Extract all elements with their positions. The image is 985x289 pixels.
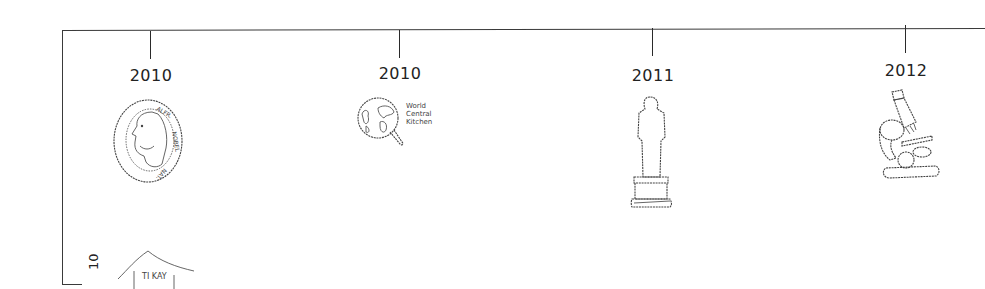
event-year: 2012 (885, 61, 928, 80)
event-year: 2010 (130, 66, 173, 85)
house-sketch-icon: TI KAY (118, 249, 198, 289)
svg-text:Kitchen: Kitchen (406, 118, 432, 126)
side-label: 10 (86, 253, 101, 270)
wck-text: World (406, 102, 426, 110)
svg-text:Central: Central (406, 110, 432, 118)
partial-icon-text: TI KAY (141, 272, 167, 281)
svg-text:NOBEL: NOBEL (171, 131, 182, 153)
oscar-statuette-icon (628, 95, 676, 217)
timeline-tick (150, 31, 151, 59)
nobel-medal-icon: ALFR. NOBEL NAT. (110, 98, 186, 188)
timeline-tick (905, 25, 906, 53)
event-year: 2011 (632, 66, 675, 85)
timeline-axis-bottom (62, 284, 82, 285)
timeline-tick (652, 28, 653, 56)
world-central-kitchen-icon: World Central Kitchen (356, 96, 446, 156)
timeline-axis-top (62, 28, 985, 31)
svg-text:ALFR.: ALFR. (156, 105, 174, 119)
event-year: 2010 (379, 64, 422, 83)
microscope-icon (876, 88, 946, 190)
timeline-tick (399, 30, 400, 58)
timeline-axis-left (62, 31, 63, 285)
